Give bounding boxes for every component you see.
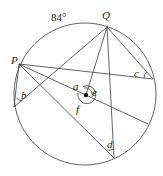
angle-label-b: b <box>21 89 27 101</box>
angle-label-f: f <box>76 103 81 115</box>
point-label-p: P <box>10 54 18 66</box>
circle-theorem-diagram: 84° Q P a b c d e f <box>0 0 163 176</box>
chord-p-c <box>19 64 153 79</box>
angle-label-d: d <box>107 138 113 150</box>
angle-label-e: e <box>92 86 97 98</box>
angle-label-a: a <box>73 80 79 92</box>
chord-p-e <box>19 64 148 124</box>
chord-q-c <box>107 27 153 79</box>
point-label-q: Q <box>102 9 110 21</box>
center-dot <box>84 93 88 97</box>
chord-p-d <box>19 64 114 158</box>
angle-label-c: c <box>134 67 139 79</box>
arc-label-84: 84° <box>51 11 66 23</box>
radius-q-o <box>86 27 107 95</box>
angle-arc-c <box>144 72 147 78</box>
